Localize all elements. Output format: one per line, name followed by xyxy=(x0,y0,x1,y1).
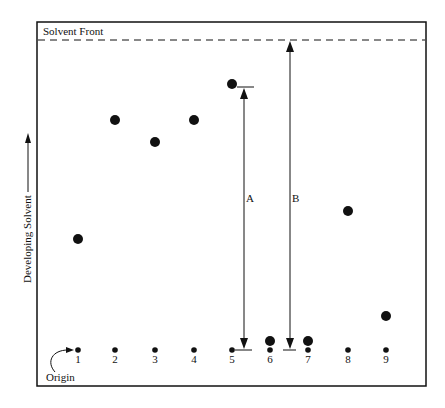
right-arrow-icon xyxy=(66,347,74,353)
measurement-b-label: B xyxy=(292,192,299,204)
origin-spot xyxy=(305,347,311,353)
down-arrow-icon xyxy=(286,338,294,349)
developed-spot-lane-3 xyxy=(150,137,160,147)
lane-label: 2 xyxy=(112,353,118,365)
lane-label: 8 xyxy=(345,353,351,365)
origin-label: Origin xyxy=(46,371,75,383)
developed-spot-lane-6 xyxy=(265,336,275,346)
developed-spot-lane-8 xyxy=(343,206,353,216)
origin-spot xyxy=(267,347,273,353)
lane-label: 7 xyxy=(305,353,311,365)
origin-spot xyxy=(191,347,197,353)
developed-spot-lane-7 xyxy=(303,336,313,346)
lane-label: 1 xyxy=(75,353,81,365)
measurement-a-label: A xyxy=(246,192,254,204)
developed-spot-lane-5 xyxy=(227,79,237,89)
lane-label: 5 xyxy=(229,353,235,365)
origin-spot xyxy=(345,347,351,353)
up-arrow-icon xyxy=(286,41,294,52)
lane-label: 6 xyxy=(267,353,273,365)
down-arrow-icon xyxy=(240,338,248,349)
developing-solvent-label: Developing Solvent xyxy=(21,195,33,283)
origin-spot xyxy=(383,347,389,353)
origin-spot xyxy=(152,347,158,353)
up-arrow-icon xyxy=(240,88,248,99)
origin-spot xyxy=(112,347,118,353)
lane-label: 3 xyxy=(152,353,158,365)
chromatogram-diagram: Solvent Front Developing Solvent 1 2 3 4… xyxy=(0,0,445,408)
measurement-b: B xyxy=(283,41,299,350)
lane-label: 9 xyxy=(383,353,389,365)
developed-spot-lane-9 xyxy=(381,311,391,321)
origin-spot xyxy=(229,347,235,353)
solvent-front-label: Solvent Front xyxy=(43,25,103,37)
lane-labels: 1 2 3 4 5 6 7 8 9 xyxy=(75,353,389,365)
developed-spots xyxy=(73,79,391,346)
paper-frame xyxy=(37,22,426,386)
developed-spot-lane-2 xyxy=(110,115,120,125)
measurement-a: A xyxy=(235,87,254,350)
up-arrow-icon xyxy=(25,133,31,143)
developed-spot-lane-1 xyxy=(73,234,83,244)
developed-spot-lane-4 xyxy=(189,115,199,125)
origin-curved-arrow xyxy=(51,350,68,372)
origin-spots xyxy=(75,347,389,353)
origin-spot xyxy=(75,347,81,353)
lane-label: 4 xyxy=(191,353,197,365)
